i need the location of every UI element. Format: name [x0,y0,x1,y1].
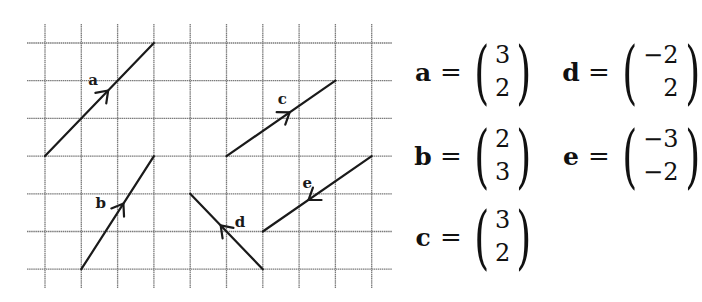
components: −2 2 [643,39,678,105]
vector-label: b [95,194,106,212]
column-vector: ( −3 −2 ) [616,119,702,193]
components: 3 2 [495,204,510,270]
grid-lines [27,24,392,288]
vector-name: b [412,142,434,171]
x-component: −3 [643,123,678,156]
vector-name: c [412,223,434,252]
vector-name: d [560,58,582,87]
equals-sign: = [588,141,610,171]
right-paren: ) [517,119,532,193]
left-paren: ( [474,35,489,109]
y-component: 2 [663,72,678,105]
right-paren: ) [517,200,532,274]
x-component: −2 [643,39,678,72]
equation-d: d = ( −2 2 ) [560,35,702,109]
column-vector: ( 2 3 ) [468,119,538,193]
x-component: 3 [495,204,510,237]
x-component: 3 [495,39,510,72]
components: 3 2 [495,39,510,105]
x-component: 2 [495,123,510,156]
right-paren: ) [517,35,532,109]
y-component: −2 [643,156,678,189]
components: −3 −2 [643,123,678,189]
y-component: 3 [495,156,510,189]
vector-a: a [45,43,154,156]
y-component: 2 [495,72,510,105]
left-paren: ( [474,200,489,274]
right-paren: ) [685,119,700,193]
equals-sign: = [588,57,610,87]
equals-sign: = [440,222,462,252]
equation-b: b = ( 2 3 ) [412,119,538,193]
vector-name: a [412,58,434,87]
left-paren: ( [622,119,637,193]
y-component: 2 [495,237,510,270]
vector-name: e [560,142,582,171]
vector-label: a [88,71,98,89]
column-vector: ( −2 2 ) [616,35,702,109]
equals-sign: = [440,57,462,87]
components: 2 3 [495,123,510,189]
equation-e: e = ( −3 −2 ) [560,119,702,193]
vector-label: d [235,213,246,231]
left-paren: ( [474,119,489,193]
vector-label: e [303,174,313,192]
column-vector: ( 3 2 ) [468,35,538,109]
right-paren: ) [685,35,700,109]
equation-c: c = ( 3 2 ) [412,200,538,274]
vector-grid: abcde [0,0,400,302]
left-paren: ( [622,35,637,109]
vector-label: c [278,90,287,108]
equation-a: a = ( 3 2 ) [412,35,538,109]
equals-sign: = [440,141,462,171]
column-vector: ( 3 2 ) [468,200,538,274]
vector-line [45,43,154,156]
